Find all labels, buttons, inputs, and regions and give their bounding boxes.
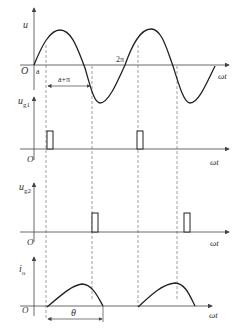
ug1-axis-label: ug1 — [18, 95, 31, 109]
gate-pulse — [184, 213, 190, 232]
origin-label: O — [27, 237, 34, 247]
io-axis-label: io — [19, 263, 26, 277]
panel-ug2: ug2 O ωt — [19, 181, 229, 248]
alpha-pi-label: a+π — [58, 75, 70, 84]
current-pulse — [138, 283, 195, 307]
origin-label: O — [21, 65, 28, 76]
omega-t-label: ωt — [210, 238, 219, 248]
gate-pulse — [137, 131, 143, 149]
current-pulse — [47, 284, 103, 307]
omega-t-label: ωt — [210, 157, 219, 167]
ug2-axis-label: ug2 — [19, 181, 32, 195]
panel-u: u O a 2π ωt a+π — [20, 8, 229, 103]
panel-io: io O ωt θ — [19, 257, 218, 322]
panel-ug1: ug1 O ωt — [18, 95, 229, 167]
omega-t-label: ωt — [218, 71, 227, 81]
origin-label: O — [27, 154, 34, 164]
two-pi-label: 2π — [116, 55, 124, 64]
u-axis-label: u — [23, 19, 28, 30]
omega-t-label: ωt — [209, 310, 218, 320]
waveform-diagram: u O a 2π ωt a+π ug1 O ωt ug2 O ωt io O ω… — [0, 0, 244, 334]
gate-pulse — [92, 213, 98, 232]
alpha-label: a — [36, 67, 40, 76]
theta-label: θ — [71, 307, 76, 318]
origin-label: O — [22, 305, 29, 315]
gate-pulse — [47, 131, 53, 149]
sine-wave — [34, 29, 215, 103]
